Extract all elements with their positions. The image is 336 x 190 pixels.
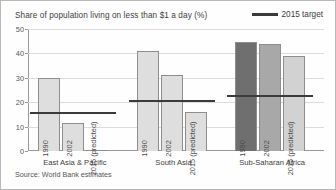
legend-line-swatch xyxy=(252,13,278,16)
bar-group-1: 199020022015 (predicted)East Asia & Paci… xyxy=(34,29,116,151)
bar-group-2: 199020022015 (predicted)South Asia xyxy=(133,29,215,151)
y-tick-mark-40 xyxy=(25,53,28,54)
y-tick-label-30: 30 xyxy=(16,73,24,82)
bar[interactable]: 2002 xyxy=(161,75,183,151)
y-tick-label-0: 0 xyxy=(20,147,24,156)
source-note: Source: World Bank estimates xyxy=(15,170,112,179)
bars-container: 199020022015 (predicted) xyxy=(133,29,215,151)
bar[interactable]: 2015 (predicted) xyxy=(283,56,305,151)
target-line xyxy=(129,100,215,102)
y-tick-label-50: 50 xyxy=(16,25,24,34)
plot-area: 01020304050 199020022015 (predicted)East… xyxy=(28,29,324,151)
chart-figure: Share of population living on less than … xyxy=(0,0,336,190)
bar-group-3: 199020022015 (predicted)Sub-Saharan Afri… xyxy=(231,29,313,151)
bars-container: 199020022015 (predicted) xyxy=(231,29,313,151)
y-tick-mark-30 xyxy=(25,78,28,79)
y-tick-label-10: 10 xyxy=(16,122,24,131)
bar[interactable]: 2015 (predicted) xyxy=(185,112,207,151)
group-label: South Asia xyxy=(133,158,215,167)
bar[interactable]: 2002 xyxy=(259,44,281,151)
bar-caption: 1990 xyxy=(140,140,147,156)
bar[interactable]: 2015 (predicted) xyxy=(86,150,108,151)
bar[interactable]: 1990 xyxy=(38,78,60,151)
y-tick-mark-50 xyxy=(25,29,28,30)
bar-caption: 2002 xyxy=(65,140,72,156)
y-tick-mark-20 xyxy=(25,102,28,103)
group-label: Sub-Saharan Africa xyxy=(231,158,313,167)
bar-caption: 1990 xyxy=(41,140,48,156)
bar-caption: 1990 xyxy=(239,140,246,156)
group-label: East Asia & Pacific xyxy=(34,158,116,167)
target-line xyxy=(30,112,116,114)
bars-container: 199020022015 (predicted) xyxy=(34,29,116,151)
target-line xyxy=(227,95,313,97)
bar[interactable]: 2002 xyxy=(62,123,84,151)
y-tick-label-20: 20 xyxy=(16,98,24,107)
y-tick-label-40: 40 xyxy=(16,49,24,58)
legend-label-2015-target: 2015 target xyxy=(282,10,323,19)
y-tick-mark-0 xyxy=(25,151,28,152)
chart-legend: 2015 target xyxy=(252,10,323,19)
y-tick-mark-10 xyxy=(25,127,28,128)
chart-title: Share of population living on less than … xyxy=(15,11,207,20)
bar-caption: 2002 xyxy=(164,140,171,156)
bar-caption: 2002 xyxy=(263,140,270,156)
